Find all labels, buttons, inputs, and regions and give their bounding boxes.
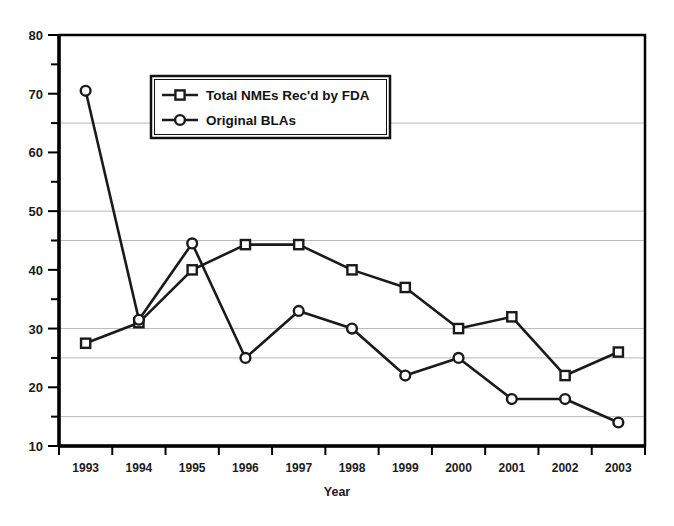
legend-square-icon	[175, 90, 184, 99]
y-axis-tick-label: 20	[29, 380, 43, 395]
data-point-circle-marker	[81, 86, 91, 96]
data-point-square-marker	[614, 347, 623, 356]
y-axis-tick-label: 70	[29, 87, 43, 102]
data-point-square-marker	[81, 339, 90, 348]
data-point-circle-marker	[187, 239, 197, 249]
data-point-square-marker	[560, 371, 569, 380]
data-point-circle-marker	[560, 394, 570, 404]
x-axis-tick-label: 1997	[285, 461, 312, 475]
x-axis-tick-label: 1994	[126, 461, 153, 475]
legend-item-label: Total NMEs Rec'd by FDA	[206, 88, 370, 103]
data-point-circle-marker	[347, 324, 357, 334]
y-axis-tick-label: 30	[29, 322, 43, 337]
data-point-square-marker	[294, 240, 303, 249]
x-axis-tick-label: 2001	[498, 461, 525, 475]
y-axis-tick-label: 50	[29, 204, 43, 219]
chart-legend[interactable]: Total NMEs Rec'd by FDAOriginal BLAs	[151, 76, 390, 138]
data-point-circle-marker	[400, 371, 410, 381]
legend-item-label: Original BLAs	[206, 113, 296, 128]
x-axis-tick-label: 2003	[605, 461, 632, 475]
data-point-circle-marker	[294, 306, 304, 316]
x-axis-tick-label: 1999	[392, 461, 419, 475]
data-point-circle-marker	[507, 394, 517, 404]
data-point-square-marker	[507, 312, 516, 321]
data-point-square-marker	[347, 265, 356, 274]
data-point-square-marker	[454, 324, 463, 333]
x-axis-tick-label: 1998	[339, 461, 366, 475]
data-point-square-marker	[241, 240, 250, 249]
x-axis-tick-label: 1993	[72, 461, 99, 475]
data-point-circle-marker	[134, 315, 144, 325]
legend-box	[151, 76, 390, 138]
x-axis-tick-label: 2000	[445, 461, 472, 475]
line-chart: 1020304050607080 19931994199519961997199…	[0, 0, 674, 526]
chart-container: 1020304050607080 19931994199519961997199…	[0, 0, 674, 526]
data-point-circle-marker	[613, 418, 623, 428]
data-point-square-marker	[188, 265, 197, 274]
x-axis-tick-label: 2002	[552, 461, 579, 475]
x-axis-title: Year	[324, 485, 351, 499]
data-point-circle-marker	[454, 353, 464, 363]
y-axis-tick-label: 60	[29, 145, 43, 160]
data-point-square-marker	[401, 283, 410, 292]
data-point-circle-marker	[241, 353, 251, 363]
legend-circle-icon	[175, 115, 185, 125]
x-axis-tick-label: 1995	[179, 461, 206, 475]
y-axis-tick-label: 10	[29, 439, 43, 454]
x-axis-tick-label: 1996	[232, 461, 259, 475]
y-axis-tick-label: 80	[29, 28, 43, 43]
y-axis-tick-label: 40	[29, 263, 43, 278]
